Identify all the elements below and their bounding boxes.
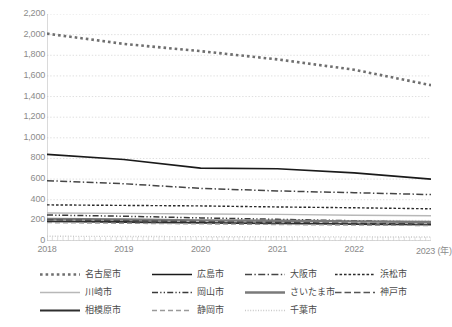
legend-label: さいたま市: [290, 287, 335, 298]
legend-swatch-icon: [152, 305, 192, 316]
legend-item[interactable]: 静岡市: [152, 302, 224, 319]
chart-canvas: [47, 14, 431, 241]
legend-swatch-icon: [335, 287, 375, 298]
legend-row: 相模原市静岡市千葉市: [0, 302, 436, 319]
series-line-2: [47, 181, 431, 195]
legend-swatch-icon: [152, 269, 192, 280]
plot-area: [47, 14, 431, 241]
y-axis-tick-label: 200: [3, 215, 45, 224]
x-axis: 201820192020202120222023 (年): [47, 244, 436, 260]
legend-swatch-icon: [335, 269, 375, 280]
x-axis-tick-label: 2022: [345, 244, 364, 254]
legend-row: 名古屋市広島市大阪市浜松市: [0, 266, 436, 283]
legend-swatch-icon: [245, 287, 285, 298]
y-axis-tick-label: 1,000: [3, 133, 45, 142]
legend-row: 川崎市岡山市さいたま市神戸市: [0, 284, 436, 301]
y-axis-tick-label: 2,200: [3, 9, 45, 18]
legend-label: 静岡市: [197, 305, 224, 316]
y-axis: 2,2002,0001,8001,6001,4001,2001,00080060…: [0, 0, 45, 241]
legend-label: 神戸市: [380, 287, 407, 298]
legend-swatch-icon: [40, 287, 80, 298]
y-axis-tick-label: 1,200: [3, 112, 45, 121]
legend-label: 名古屋市: [85, 269, 121, 280]
series-line-10: [47, 236, 431, 237]
legend-item[interactable]: さいたま市: [245, 284, 335, 301]
legend-swatch-icon: [152, 287, 192, 298]
legend-label: 岡山市: [197, 287, 224, 298]
legend-swatch-icon: [245, 305, 285, 316]
legend-label: 川崎市: [85, 287, 112, 298]
series-line-0: [47, 34, 431, 86]
legend-item[interactable]: 大阪市: [245, 266, 317, 283]
y-axis-tick-label: 1,600: [3, 71, 45, 80]
legend-item[interactable]: 神戸市: [335, 284, 407, 301]
y-axis-tick-label: 1,400: [3, 92, 45, 101]
legend-item[interactable]: 名古屋市: [40, 266, 121, 283]
legend-label: 相模原市: [85, 305, 121, 316]
series-line-1: [47, 154, 431, 179]
x-axis-tick-label: 2019: [114, 244, 133, 254]
x-axis-tick-label: 2023 (年): [416, 244, 452, 257]
x-axis-tick-label: 2020: [191, 244, 210, 254]
y-axis-tick-label: 2,000: [3, 30, 45, 39]
x-axis-tick-label: 2018: [37, 244, 56, 254]
legend-item[interactable]: 浜松市: [335, 266, 407, 283]
legend-label: 広島市: [197, 269, 224, 280]
legend-item[interactable]: 岡山市: [152, 284, 224, 301]
y-axis-tick-label: 400: [3, 195, 45, 204]
y-axis-tick-label: 1,800: [3, 50, 45, 59]
chart-legend: 名古屋市広島市大阪市浜松市川崎市岡山市さいたま市神戸市相模原市静岡市千葉市: [0, 266, 436, 326]
series-line-3: [47, 205, 431, 209]
legend-label: 千葉市: [290, 305, 317, 316]
x-axis-tick-label: 2021: [268, 244, 287, 254]
legend-swatch-icon: [245, 269, 285, 280]
y-axis-tick-label: 800: [3, 153, 45, 162]
legend-swatch-icon: [40, 269, 80, 280]
legend-item[interactable]: 川崎市: [40, 284, 112, 301]
legend-label: 浜松市: [380, 269, 407, 280]
legend-item[interactable]: 相模原市: [40, 302, 121, 319]
legend-item[interactable]: 広島市: [152, 266, 224, 283]
legend-item[interactable]: 千葉市: [245, 302, 317, 319]
y-axis-tick-label: 600: [3, 174, 45, 183]
legend-label: 大阪市: [290, 269, 317, 280]
legend-swatch-icon: [40, 305, 80, 316]
